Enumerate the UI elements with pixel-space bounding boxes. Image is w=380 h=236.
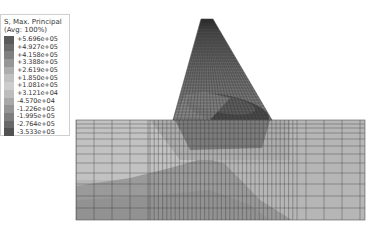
dam-body	[170, 19, 275, 132]
foundation-block	[76, 120, 365, 220]
fe-model-viewport[interactable]	[0, 0, 380, 236]
